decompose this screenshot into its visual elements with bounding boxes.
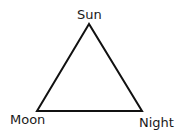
vertex-label-sun: Sun: [77, 8, 102, 21]
triangle-diagram: Sun Moon Night: [0, 0, 182, 137]
vertex-label-night: Night: [139, 116, 174, 129]
vertex-label-moon: Moon: [10, 113, 45, 126]
